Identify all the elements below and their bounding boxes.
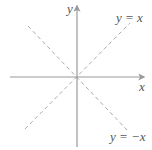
label-y-equals-neg-x: y = −x: [108, 129, 146, 144]
y-axis-label: y: [65, 1, 73, 16]
diagram-canvas: y x y = x y = −x: [0, 0, 152, 150]
label-y-equals-x: y = x: [114, 10, 143, 25]
x-axis-label: x: [138, 79, 145, 94]
